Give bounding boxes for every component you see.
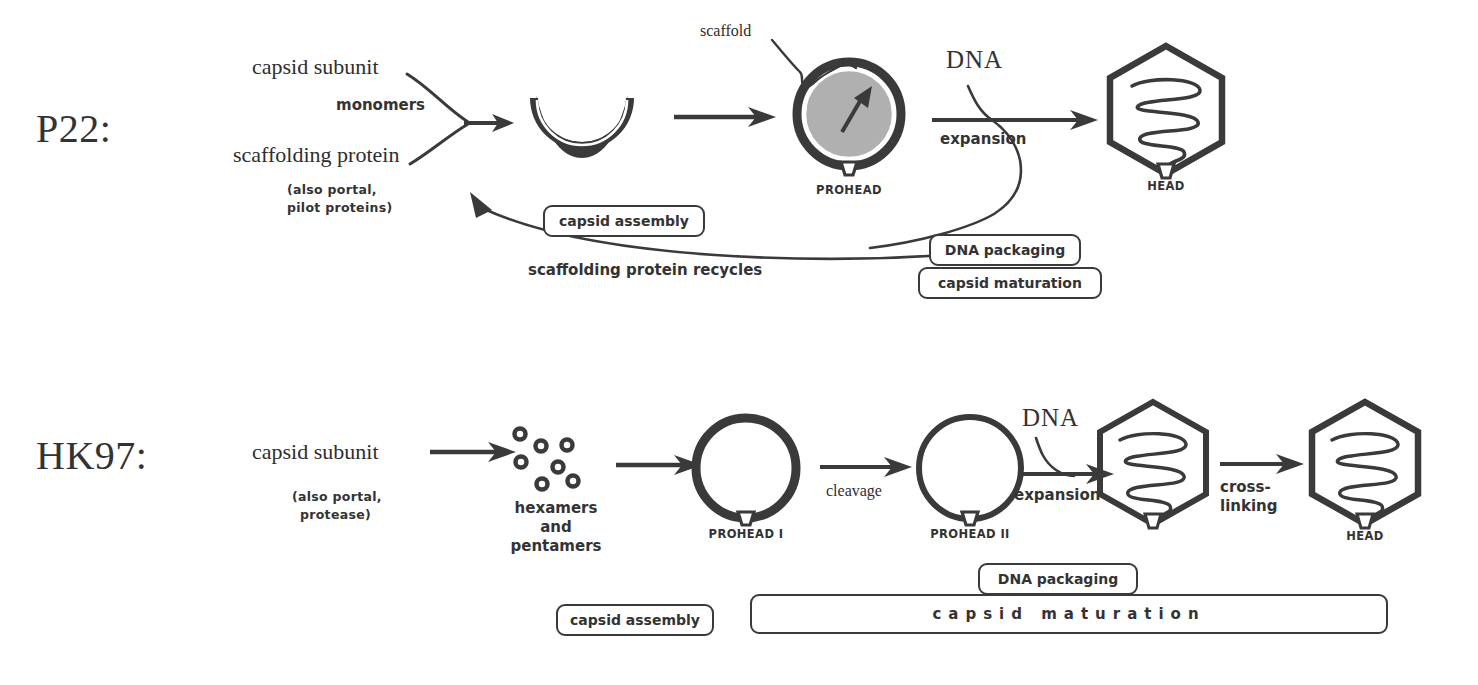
p22-expansion-label: expansion: [940, 131, 1026, 148]
p22-recycle-label: scaffolding protein recycles: [528, 262, 762, 279]
p22-prohead-structure: [790, 56, 908, 186]
p22-head-structure: [1102, 42, 1230, 182]
pathway-label-hk97: HK97:: [36, 432, 147, 479]
hk97-oligomers-line2: and: [486, 519, 626, 536]
hk97-dna-label: DNA: [1022, 404, 1079, 432]
p22-capsid-subunit-label: capsid subunit: [252, 55, 379, 80]
hk97-capsid-maturation-text: capsid maturation: [932, 605, 1205, 623]
p22-dna-packaging-text: DNA packaging: [945, 242, 1065, 258]
hk97-capsid-assembly-text: capsid assembly: [570, 612, 700, 628]
p22-input-converge-arrow: [390, 60, 520, 170]
p22-capsid-maturation-box: capsid maturation: [918, 267, 1102, 299]
p22-capsid-assembly-text: capsid assembly: [559, 213, 689, 229]
hk97-cleavage-label: cleavage: [826, 482, 882, 500]
hk97-oligomers-line3: pentamers: [486, 538, 626, 555]
p22-head-label: HEAD: [1102, 180, 1230, 193]
hk97-proheadii-structure: [908, 412, 1032, 534]
hk97-also-portal-line2: protease): [300, 508, 371, 522]
hk97-dna-packaging-box: DNA packaging: [978, 563, 1138, 595]
hk97-head-structure: [1304, 398, 1426, 532]
p22-capsid-maturation-text: capsid maturation: [938, 275, 1082, 291]
p22-also-portal-line1: (also portal,: [287, 183, 377, 197]
hk97-proheadii-label: PROHEAD II: [908, 528, 1032, 541]
hk97-crosslink-line1: cross-: [1220, 479, 1271, 496]
hk97-dna-packaging-text: DNA packaging: [998, 571, 1118, 587]
p22-scaffold-label: scaffold: [700, 22, 751, 40]
hk97-proheadi-structure: [684, 412, 808, 534]
hk97-capsid-subunit-label: capsid subunit: [252, 440, 379, 465]
diagram-canvas: P22: capsid subunit monomers scaffolding…: [0, 0, 1478, 685]
pathway-label-p22: P22:: [36, 105, 111, 152]
p22-dna-label: DNA: [946, 46, 1003, 74]
p22-capsid-assembly-box: capsid assembly: [543, 205, 705, 237]
p22-dna-packaging-box: DNA packaging: [929, 234, 1081, 266]
hk97-proheadi-label: PROHEAD I: [684, 528, 808, 541]
p22-also-portal-line2: pilot proteins): [287, 201, 392, 215]
hk97-arrow-crosslinking: [1218, 452, 1310, 476]
hk97-crosslink-line2: linking: [1220, 498, 1278, 515]
hk97-oligomers-line1: hexamers: [486, 500, 626, 517]
p22-scaffolding-protein-label: scaffolding protein: [233, 143, 399, 168]
p22-partial-capsid-shell: [528, 92, 636, 170]
hk97-oligomer-rings: [500, 420, 610, 500]
hk97-capsid-maturation-box: capsid maturation: [750, 594, 1388, 634]
hk97-arrow-cleavage: [818, 455, 918, 479]
hk97-capsid-assembly-box: capsid assembly: [556, 604, 714, 636]
p22-scaffolding-recycle-arrow: [448, 186, 968, 266]
hk97-head-label: HEAD: [1304, 530, 1426, 543]
hk97-expanded-head-structure: [1092, 398, 1214, 532]
hk97-also-portal-line1: (also portal,: [292, 490, 382, 504]
hk97-expansion-label: expansion: [1014, 487, 1100, 504]
p22-arrow-assembly-to-prohead: [672, 105, 780, 129]
